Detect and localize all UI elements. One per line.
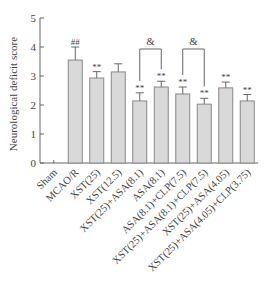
significance-mark: ** [135, 83, 145, 93]
significance-mark: ## [71, 37, 81, 47]
significance-mark: ** [157, 71, 167, 81]
bar [111, 72, 125, 163]
bar [133, 101, 147, 163]
y-tick-label: 5 [31, 12, 37, 24]
y-tick-label: 4 [31, 41, 37, 53]
bracket-label: & [146, 35, 155, 47]
bar [219, 88, 233, 163]
significance-mark: ** [200, 88, 210, 98]
bar-chart: 012345Sham##MCAO/R**XST(25)XST(12.5)**XS… [0, 0, 264, 282]
y-tick-label: 0 [31, 157, 37, 169]
y-tick-label: 1 [31, 128, 37, 140]
significance-mark: ** [221, 72, 231, 82]
bar [176, 94, 190, 163]
y-tick-label: 2 [31, 99, 37, 111]
bar [197, 104, 211, 163]
significance-mark: ** [243, 85, 253, 95]
bar [90, 78, 104, 163]
bar [68, 60, 82, 163]
bar [240, 101, 254, 163]
bar [154, 87, 168, 163]
bracket-label: & [189, 35, 198, 47]
y-tick-label: 3 [31, 70, 37, 82]
significance-mark: ** [92, 62, 102, 72]
significance-mark: ** [178, 77, 188, 87]
